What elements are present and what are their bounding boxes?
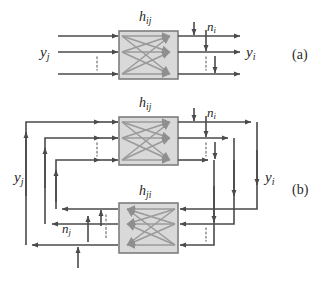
panel-b-left-turn-arrows [26,132,56,202]
panel-a-block-label: hij [139,10,151,26]
panel-b-block-top-label: hij [139,96,151,112]
panel-a-input-label: yj [40,45,50,62]
panel-a-noise-label: ni [207,20,216,35]
panel-b-noise-top-label: ni [207,106,216,121]
panel-b-right-turn-arrows [214,150,257,222]
panel-a-input-lines [58,36,118,74]
panel-a-output-lines [178,36,240,74]
panel-b-noise-arrows-bottom [78,210,101,268]
panel-a-tag: (a) [292,47,308,63]
channel-block-diagram [0,0,328,281]
panel-a-output-label: yi [246,45,256,62]
panel-b-top-input-stubs [100,122,118,160]
panel-b-left-label: yj [14,170,24,187]
panel-b-noise-bottom-label: nj [62,222,71,237]
panel-b-right-feedback-paths [180,122,257,245]
panel-b-tag: (b) [292,182,308,198]
panel-b-block-bottom-label: hji [139,184,151,200]
panel-b-right-label: yi [265,170,275,187]
